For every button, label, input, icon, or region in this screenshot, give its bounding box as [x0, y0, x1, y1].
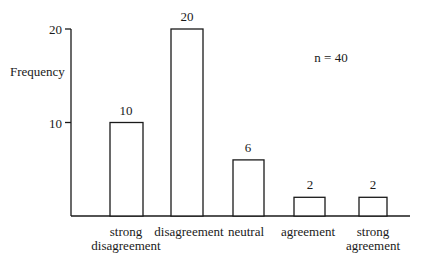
bar-value-label: 2: [370, 177, 377, 192]
y-axis-label: Frequency: [10, 64, 65, 79]
bar: [359, 197, 387, 216]
x-category-label: strong: [110, 224, 143, 239]
bar: [294, 197, 325, 216]
bar-value-label: 6: [245, 140, 252, 155]
x-category-label: agreement: [281, 224, 336, 239]
axes: 1020: [49, 22, 410, 216]
x-category-label: neutral: [228, 224, 264, 239]
bar: [171, 29, 203, 216]
sample-size-annotation: n = 40: [314, 50, 347, 65]
x-category-label: strong: [357, 224, 390, 239]
bar-value-label: 2: [307, 177, 314, 192]
y-tick-label: 20: [49, 22, 62, 37]
bar: [233, 160, 264, 216]
x-category-label: agreement: [346, 238, 401, 253]
bar-value-label: 20: [181, 9, 194, 24]
y-tick-label: 10: [49, 116, 62, 131]
bar-chart: 1020 Frequency10strongdisagreement20disa…: [0, 0, 422, 261]
bar: [110, 123, 143, 217]
bar-value-label: 10: [120, 103, 133, 118]
x-category-label: disagreement: [154, 224, 224, 239]
x-category-label: disagreement: [91, 238, 161, 253]
